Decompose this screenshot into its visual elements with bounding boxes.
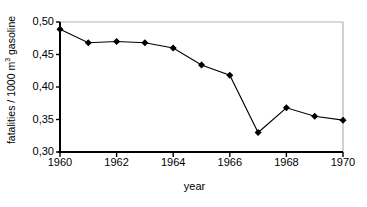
x-axis-title-text: year [184,180,205,192]
x-axis-tick-labels: 196019621964196619681970 [0,0,367,207]
x-axis-tick-label: 1962 [95,156,139,168]
chart-figure: fatalities / 1000 m3 gasoline 0,300,350,… [0,0,367,207]
x-axis-tick-label: 1960 [38,156,82,168]
x-axis-tick-label: 1970 [321,156,365,168]
x-axis-title: year [0,180,367,192]
x-axis-tick-label: 1966 [208,156,252,168]
x-axis-tick-label: 1964 [151,156,195,168]
x-axis-tick-label: 1968 [264,156,308,168]
